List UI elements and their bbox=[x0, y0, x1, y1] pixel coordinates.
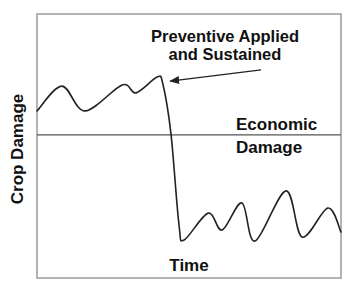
crop-damage-series-line bbox=[37, 76, 341, 241]
annotation-arrow bbox=[170, 70, 261, 81]
annotation-text-line-2: and Sustained bbox=[169, 45, 282, 63]
annotation-text-line-1: Preventive Applied bbox=[151, 27, 299, 45]
x-axis-label: Time bbox=[169, 256, 208, 275]
threshold-label-line-2: Damage bbox=[236, 138, 302, 157]
crop-damage-chart: Preventive Applied and Sustained Economi… bbox=[0, 0, 351, 289]
y-axis-label: Crop Damage bbox=[8, 94, 27, 205]
threshold-label-line-1: Economic bbox=[236, 115, 317, 134]
